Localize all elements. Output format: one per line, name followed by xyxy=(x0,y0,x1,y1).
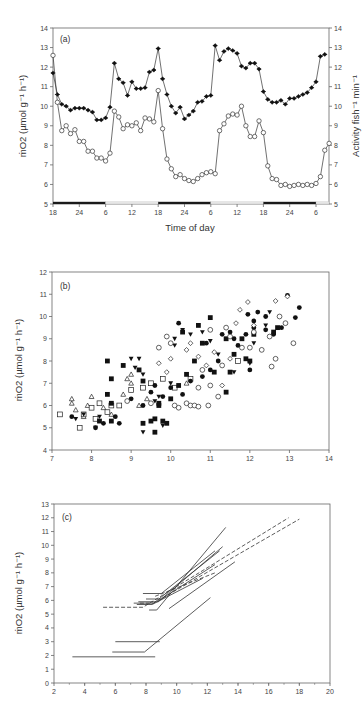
filled-square-marker xyxy=(208,315,213,320)
filled-circle-marker xyxy=(216,359,221,364)
open-diamond-marker xyxy=(234,321,239,326)
open-square-marker xyxy=(97,401,102,406)
x-tick-label: 6 xyxy=(209,209,213,216)
open-circle-marker xyxy=(296,182,300,186)
open-circle-marker xyxy=(309,183,313,187)
panel-c-y-axis-title: ṁO2 (µmol g⁻¹ h⁻¹) xyxy=(13,552,24,635)
open-circle-marker xyxy=(178,172,182,176)
filled-triangle-down-marker xyxy=(137,357,142,361)
open-circle-marker xyxy=(168,341,173,346)
y-tick-label: 5 xyxy=(44,201,48,208)
open-diamond-marker xyxy=(204,363,209,368)
open-circle-marker xyxy=(200,172,204,176)
open-circle-marker xyxy=(125,399,130,404)
y-tick-label: 9 xyxy=(43,335,47,342)
x-tick-label: 12 xyxy=(233,209,241,216)
open-circle-marker xyxy=(147,117,151,121)
open-diamond-marker xyxy=(273,299,278,304)
filled-circle-marker xyxy=(247,368,252,373)
open-circle-marker xyxy=(266,164,270,168)
right-y-tick-label: 6 xyxy=(334,181,338,188)
y-tick-label: 2 xyxy=(45,652,49,659)
filled-circle-marker xyxy=(101,421,106,426)
filled-triangle-down-marker xyxy=(73,417,78,421)
filled-circle-marker xyxy=(152,383,157,388)
filled-circle-marker xyxy=(293,315,298,320)
open-circle-marker xyxy=(149,401,154,406)
y-tick-label: 13 xyxy=(41,501,49,508)
open-circle-marker xyxy=(208,327,213,332)
open-circle-marker xyxy=(86,149,90,153)
open-circle-marker xyxy=(112,109,116,113)
right-y-tick-label: 5 xyxy=(334,201,338,208)
y-tick-label: 12 xyxy=(39,269,47,276)
open-circle-marker xyxy=(291,341,296,346)
open-circle-marker xyxy=(261,130,265,134)
filled-circle-marker xyxy=(208,368,213,373)
x-tick-label: 12 xyxy=(203,688,211,695)
filled-square-marker xyxy=(240,336,245,341)
y-tick-label: 11 xyxy=(40,291,47,298)
open-circle-marker xyxy=(274,177,278,181)
open-circle-marker xyxy=(327,141,331,145)
open-circle-marker xyxy=(191,179,195,183)
filled-triangle-down-marker xyxy=(141,372,146,376)
x-tick-label: 16 xyxy=(265,688,273,695)
y-tick-label: 0 xyxy=(45,680,49,687)
open-circle-marker xyxy=(134,121,138,125)
open-circle-marker xyxy=(208,383,213,388)
open-diamond-marker xyxy=(212,350,217,355)
filled-triangle-down-marker xyxy=(172,337,177,341)
right-y-tick-label: 13 xyxy=(334,44,342,51)
open-circle-marker xyxy=(156,88,160,92)
open-square-marker xyxy=(58,412,63,417)
x-tick-label: 6 xyxy=(113,688,117,695)
filled-circle-marker xyxy=(149,390,154,395)
dark-period-bar xyxy=(53,202,106,204)
filled-circle-marker xyxy=(188,379,193,384)
y-tick-label: 3 xyxy=(45,638,49,645)
panel-b-scatter-points xyxy=(58,293,302,435)
right-y-tick-label: 8 xyxy=(334,142,338,149)
y-tick-label: 8 xyxy=(45,569,49,576)
filled-triangle-down-marker xyxy=(247,361,252,365)
open-circle-marker xyxy=(239,104,243,108)
filled-circle-marker xyxy=(200,374,205,379)
x-tick-label: 18 xyxy=(295,688,303,695)
open-diamond-marker xyxy=(228,356,233,361)
x-tick-label: 12 xyxy=(246,455,254,462)
open-circle-marker xyxy=(259,347,264,352)
filled-circle-marker xyxy=(117,421,122,426)
panel-c-axes: 0123456789101112132468101214161820 xyxy=(41,501,334,696)
filled-square-marker xyxy=(141,379,146,384)
x-tick-label: 6 xyxy=(314,209,318,216)
open-circle-marker xyxy=(164,334,169,339)
regression-line-2 xyxy=(112,598,210,652)
filled-triangle-down-marker xyxy=(216,352,221,356)
filled-square-marker xyxy=(105,392,110,397)
y-tick-label: 4 xyxy=(45,624,49,631)
open-circle-marker xyxy=(81,139,85,143)
open-circle-marker xyxy=(220,363,225,368)
open-diamond-marker xyxy=(238,307,243,312)
open-circle-marker xyxy=(244,124,248,128)
y-tick-label: 10 xyxy=(41,542,49,549)
open-circle-marker xyxy=(235,113,239,117)
filled-square-marker xyxy=(109,401,114,406)
open-triangle-marker xyxy=(69,396,74,400)
x-tick-label: 4 xyxy=(83,688,87,695)
y-tick-label: 13 xyxy=(40,44,48,51)
y-tick-label: 12 xyxy=(40,64,48,71)
filled-circle-marker xyxy=(113,414,118,419)
filled-circle-marker xyxy=(255,310,260,315)
series-line-filled-diamond xyxy=(53,46,325,120)
filled-square-marker xyxy=(196,323,201,328)
plot-frame xyxy=(54,504,330,683)
filled-square-marker xyxy=(156,401,161,406)
x-tick-label: 9 xyxy=(129,455,133,462)
x-tick-label: 24 xyxy=(75,209,83,216)
x-tick-label: 18 xyxy=(260,209,268,216)
open-circle-marker xyxy=(152,120,156,124)
open-circle-marker xyxy=(323,148,327,152)
filled-square-marker xyxy=(228,370,233,375)
